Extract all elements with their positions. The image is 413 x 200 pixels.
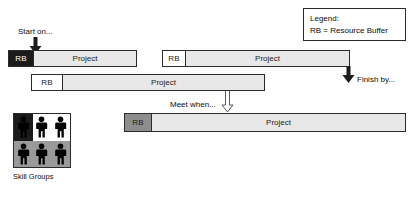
project-bar-4[interactable]: RB Project [124,113,406,132]
callout-finish-by: Finish by... [357,76,395,84]
skill-cell-6[interactable] [51,141,70,168]
person-icon [16,143,31,165]
person-icon [34,143,49,165]
project-block-4[interactable]: Project [152,114,405,131]
skill-groups-caption: Skill Groups [13,173,53,181]
project-bar-3[interactable]: RB Project [31,74,265,91]
finish-by-arrow-icon [342,66,355,83]
project-block-2[interactable]: Project [186,51,349,66]
resource-buffer-block-3[interactable]: RB [32,75,63,90]
person-icon [16,116,31,138]
person-icon [53,143,68,165]
project-bar-2[interactable]: RB Project [162,50,350,67]
skill-cell-3[interactable] [51,114,70,141]
skill-groups-grid[interactable] [13,113,71,168]
legend-title: Legend: [310,13,399,25]
legend-box: Legend: RB = Resource Buffer [303,8,406,41]
skill-cell-4[interactable] [14,141,33,168]
callout-meet-when: Meet when... [170,101,216,109]
legend-definition: RB = Resource Buffer [310,25,399,37]
resource-buffer-block-2[interactable]: RB [163,51,186,66]
skill-cell-5[interactable] [33,141,52,168]
diagram-canvas: Legend: RB = Resource Buffer Start on...… [0,0,413,200]
skill-cell-2[interactable] [33,114,52,141]
skill-cell-1[interactable] [14,114,33,141]
resource-buffer-block-1[interactable]: RB [9,51,34,66]
resource-buffer-block-4[interactable]: RB [125,114,152,131]
callout-start-on: Start on... [18,28,53,36]
person-icon [34,116,49,138]
meet-when-arrow-icon [220,91,235,113]
person-icon [53,116,68,138]
project-bar-1[interactable]: RB Project [8,50,137,67]
project-block-3[interactable]: Project [63,75,264,90]
project-block-1[interactable]: Project [34,51,136,66]
